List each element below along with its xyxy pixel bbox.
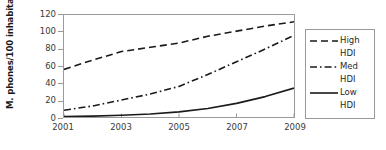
legend-label-continuation: HDI xyxy=(309,47,371,60)
y-tick-label: 100 xyxy=(18,27,56,36)
x-tick-label: 2001 xyxy=(43,122,83,132)
y-tick-label: 20 xyxy=(18,96,56,105)
y-axis-tick-labels: 020406080100120 xyxy=(18,14,60,118)
x-axis-tick-labels: 20012003200520072009 xyxy=(63,122,295,138)
y-axis-title-container: M. phones/100 inhabitants xyxy=(0,0,18,130)
chart-legend: HighHDIMedHDILowHDI xyxy=(305,29,375,119)
y-tick-mark xyxy=(58,118,63,119)
plot-area xyxy=(63,14,295,118)
y-tick-mark xyxy=(58,83,63,84)
series-lines xyxy=(64,15,294,117)
y-tick-mark xyxy=(58,101,63,102)
legend-item: Med xyxy=(309,60,371,73)
legend-line-sample xyxy=(309,62,339,72)
y-axis-title: M. phones/100 inhabitants xyxy=(5,5,15,109)
series-line xyxy=(64,35,294,110)
legend-label-continuation: HDI xyxy=(309,99,371,112)
x-tick-label: 2005 xyxy=(159,122,199,132)
x-tick-label: 2003 xyxy=(101,122,141,132)
y-tick-label: 60 xyxy=(18,62,56,71)
legend-label: Low xyxy=(339,88,357,97)
y-tick-mark xyxy=(58,49,63,50)
y-tick-mark xyxy=(58,31,63,32)
legend-label-continuation: HDI xyxy=(309,73,371,86)
x-tick-label: 2009 xyxy=(275,122,315,132)
legend-label: Med xyxy=(339,62,358,71)
legend-line-sample xyxy=(309,88,339,98)
y-tick-mark xyxy=(58,66,63,67)
legend-label: High xyxy=(339,36,360,45)
series-line xyxy=(64,88,294,116)
legend-item: High xyxy=(309,34,371,47)
y-tick-label: 80 xyxy=(18,44,56,53)
y-tick-label: 120 xyxy=(18,10,56,19)
x-tick-label: 2007 xyxy=(217,122,257,132)
series-line xyxy=(64,22,294,70)
chart-figure: M. phones/100 inhabitants 02040608010012… xyxy=(0,0,386,150)
y-tick-mark xyxy=(58,14,63,15)
y-tick-label: 40 xyxy=(18,79,56,88)
legend-item: Low xyxy=(309,86,371,99)
y-tick-label: 0 xyxy=(18,114,56,123)
legend-line-sample xyxy=(309,36,339,46)
